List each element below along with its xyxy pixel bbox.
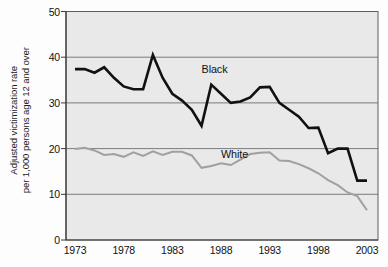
y-tick-label: 30 [49,97,60,109]
y-axis-title-line2: per 1,000 persons age 12 and over [20,47,32,193]
y-tick-label: 50 [49,6,60,18]
y-tick-label: 0 [54,234,60,246]
x-tick-label: 1973 [64,244,87,256]
chart-figure: Adjusted victimization rate per 1,000 pe… [0,0,388,267]
x-tick-label: 1988 [210,244,233,256]
y-axis-title-line1: Adjusted victimization rate [8,66,19,175]
x-tick-label: 1993 [258,244,281,256]
x-tick-label: 1998 [307,244,330,256]
y-axis-title: Adjusted victimization rate per 1,000 pe… [0,0,40,240]
series-label-white: White [221,148,248,160]
y-tick-label: 10 [49,188,60,200]
y-tick-label: 40 [49,51,60,63]
y-tick-label: 20 [49,143,60,155]
x-tick-label: 1978 [112,244,135,256]
y-axis-tick-labels: 01020304050 [36,0,60,250]
x-tick-label: 1983 [161,244,184,256]
plot-background [66,12,378,241]
x-tick-label: 2003 [356,244,379,256]
series-label-black: Black [202,63,228,75]
